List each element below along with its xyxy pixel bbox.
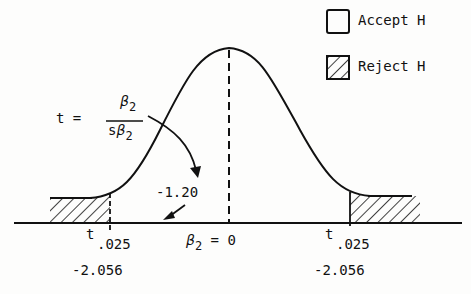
formula-arrow-head — [190, 166, 201, 178]
right-critical-t: t — [325, 226, 333, 242]
beta-symbol: β — [186, 232, 195, 248]
left-critical-sub: .025 — [97, 236, 131, 252]
subscript: 2 — [125, 129, 132, 143]
formula-lhs: t = — [56, 110, 81, 126]
formula-numerator: β2 — [120, 93, 136, 109]
observed-t-value: -1.20 — [156, 184, 198, 200]
formula-arrow — [148, 116, 196, 170]
subscript: 2 — [195, 239, 202, 253]
left-critical-value: -2.056 — [72, 262, 123, 278]
center-label: β2 = 0 — [186, 232, 236, 248]
subscript: 2 — [129, 100, 136, 114]
t-distribution-diagram: Accept H Reject H t = β2 sβ2 -1.20 t .02… — [0, 0, 471, 294]
beta-symbol: β — [120, 93, 129, 109]
diagram-graphics — [0, 0, 471, 294]
legend-accept-label: Accept H — [358, 12, 425, 28]
legend-reject-box — [327, 56, 349, 79]
observed-arrow-head — [163, 211, 175, 220]
left-critical-t: t — [86, 226, 94, 242]
formula-denominator: sβ2 — [108, 122, 133, 138]
legend-reject-label: Reject H — [358, 58, 425, 74]
right-critical-sub: .025 — [336, 236, 370, 252]
legend-accept-box — [327, 10, 349, 33]
center-equals-zero: = 0 — [211, 232, 236, 248]
right-critical-value: -2.056 — [314, 262, 365, 278]
